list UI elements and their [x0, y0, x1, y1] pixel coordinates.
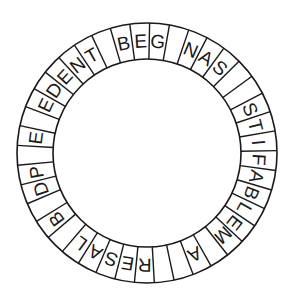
segment-letter: I	[248, 139, 269, 146]
segment-letter: A	[184, 242, 205, 267]
segment-letter: B	[44, 208, 68, 231]
segment-divider	[223, 76, 252, 97]
segment-letter: R	[138, 254, 152, 275]
segment-divider	[152, 247, 154, 283]
segment-divider	[17, 145, 53, 147]
segment-divider	[240, 131, 275, 137]
segment-letter: E	[134, 30, 148, 52]
segment-divider	[167, 245, 174, 280]
segment-letter: F	[248, 153, 270, 166]
segment-letter: E	[120, 252, 136, 275]
segment-dividers	[17, 23, 277, 283]
inner-circle	[53, 59, 241, 247]
letter-wheel-diagram: BEGNASSTIFABLEMARESALBDPEEDENT	[0, 0, 292, 303]
segment-letter: S	[238, 99, 262, 119]
segment-divider	[18, 162, 54, 165]
segment-divider	[134, 247, 137, 283]
segment-divider	[241, 151, 277, 152]
segment-letter: P	[25, 164, 48, 180]
segment-letter: E	[25, 130, 48, 145]
segment-letter: L	[70, 232, 91, 255]
segment-letter: G	[149, 30, 166, 52]
